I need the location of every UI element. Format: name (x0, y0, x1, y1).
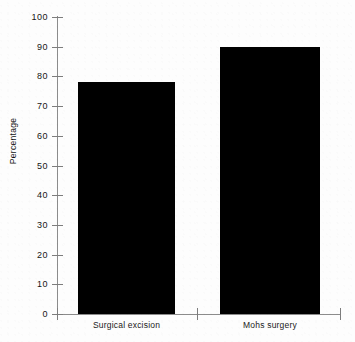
y-axis-tick-label: 60 (18, 132, 48, 141)
y-axis-tick (52, 255, 63, 256)
y-axis-tick (52, 195, 63, 196)
y-axis-tick-label: 100 (18, 13, 48, 22)
x-axis-category-label: Mohs surgery (210, 320, 330, 331)
x-axis-line (57, 314, 341, 315)
y-axis-title: Percentage (8, 106, 18, 176)
bar (220, 47, 320, 314)
y-axis-tick-label: 80 (18, 72, 48, 81)
y-axis-tick (52, 284, 63, 285)
y-axis-tick-label: 50 (18, 162, 48, 171)
x-axis-tick (340, 308, 341, 320)
y-axis-tick (52, 17, 63, 18)
y-axis-tick-label: 70 (18, 102, 48, 111)
y-axis-tick (52, 136, 63, 137)
y-axis-tick (52, 166, 63, 167)
y-axis-tick (52, 225, 63, 226)
y-axis-tick-label: 10 (18, 280, 48, 289)
x-axis-category-label: Surgical excision (67, 320, 187, 331)
y-axis-tick-label: 90 (18, 43, 48, 52)
y-axis-tick (52, 76, 63, 77)
y-axis-tick-label: 30 (18, 221, 48, 230)
x-axis-tick (197, 308, 198, 320)
y-axis-tick-label: 0 (18, 310, 48, 319)
y-axis-tick-label: 40 (18, 191, 48, 200)
y-axis-tick (52, 106, 63, 107)
y-axis-tick (52, 47, 63, 48)
x-axis-tick (57, 308, 58, 320)
bar-chart: Percentage 0102030405060708090100 Surgic… (0, 0, 355, 342)
bar (78, 82, 175, 314)
y-axis-tick-label: 20 (18, 251, 48, 260)
